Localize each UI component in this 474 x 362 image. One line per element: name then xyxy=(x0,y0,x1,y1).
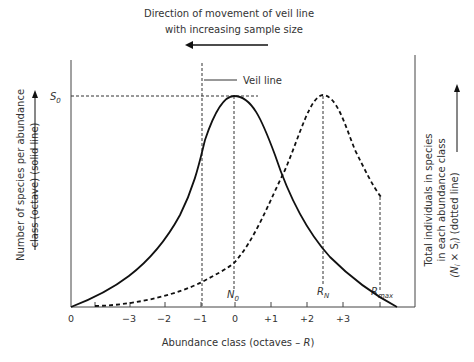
rn-label: RN xyxy=(317,286,330,300)
veil-line-label: Veil line xyxy=(243,75,282,86)
tick-label-minus3: −3 xyxy=(122,313,136,324)
tick-label-minus1: −1 xyxy=(193,313,207,324)
arrowhead-left-icon xyxy=(185,41,193,49)
direction-caption-line1: Direction of movement of veil line xyxy=(144,8,314,19)
tick-label-minus2: −2 xyxy=(157,313,171,324)
svg-text:in each abundance class: in each abundance class xyxy=(436,138,447,261)
svg-text:(Ni × Si) (dotted line): (Ni × Si) (dotted line) xyxy=(449,172,462,277)
individuals-curve-dashed xyxy=(95,95,381,306)
arrowhead-up-icon xyxy=(32,90,38,98)
tick-label-plus1: +1 xyxy=(264,313,278,324)
tick-label-zero: 0 xyxy=(232,313,238,324)
preston-lognormal-diagram: Direction of movement of veil line with … xyxy=(0,0,474,362)
left-axis-label: Number of species per abundance class (o… xyxy=(15,89,40,261)
direction-caption-line2: with increasing sample size xyxy=(165,24,303,35)
svg-text:Total individuals in species: Total individuals in species xyxy=(423,133,434,267)
n0-label: N0 xyxy=(227,289,239,303)
arrowhead-up-icon xyxy=(454,84,460,92)
s0-label: S0 xyxy=(50,91,61,105)
svg-text:Number of species per abundanc: Number of species per abundance xyxy=(15,89,26,261)
tick-label-origin: 0 xyxy=(68,313,74,324)
right-axis-label: Total individuals in species in each abu… xyxy=(423,133,462,277)
tick-label-plus2: +2 xyxy=(300,313,314,324)
x-axis-label: Abundance class (octaves – R) xyxy=(162,337,315,348)
tick-label-plus3: +3 xyxy=(336,313,350,324)
